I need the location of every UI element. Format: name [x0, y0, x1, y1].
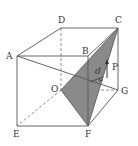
shaded-plane-ocf	[61, 28, 118, 126]
vertex-label-o: O	[51, 85, 58, 94]
cube-diagram: D C A B O G E F d P	[0, 0, 138, 146]
vertex-label-e: E	[13, 130, 20, 139]
vertex-label-d: D	[58, 16, 65, 25]
vertex-label-f: F	[85, 130, 91, 139]
arrow-label-p: P	[112, 63, 118, 72]
vertex-label-b: B	[82, 47, 89, 56]
vertex-label-c: C	[115, 16, 122, 25]
distance-label-d: d	[95, 67, 101, 76]
vertex-label-g: G	[121, 87, 128, 96]
vertex-label-a: A	[6, 52, 13, 61]
